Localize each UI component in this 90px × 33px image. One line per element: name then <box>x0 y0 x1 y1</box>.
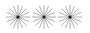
starburst-icon <box>5 4 31 30</box>
starburst-icon <box>31 4 57 30</box>
starburst-icon <box>57 4 83 30</box>
